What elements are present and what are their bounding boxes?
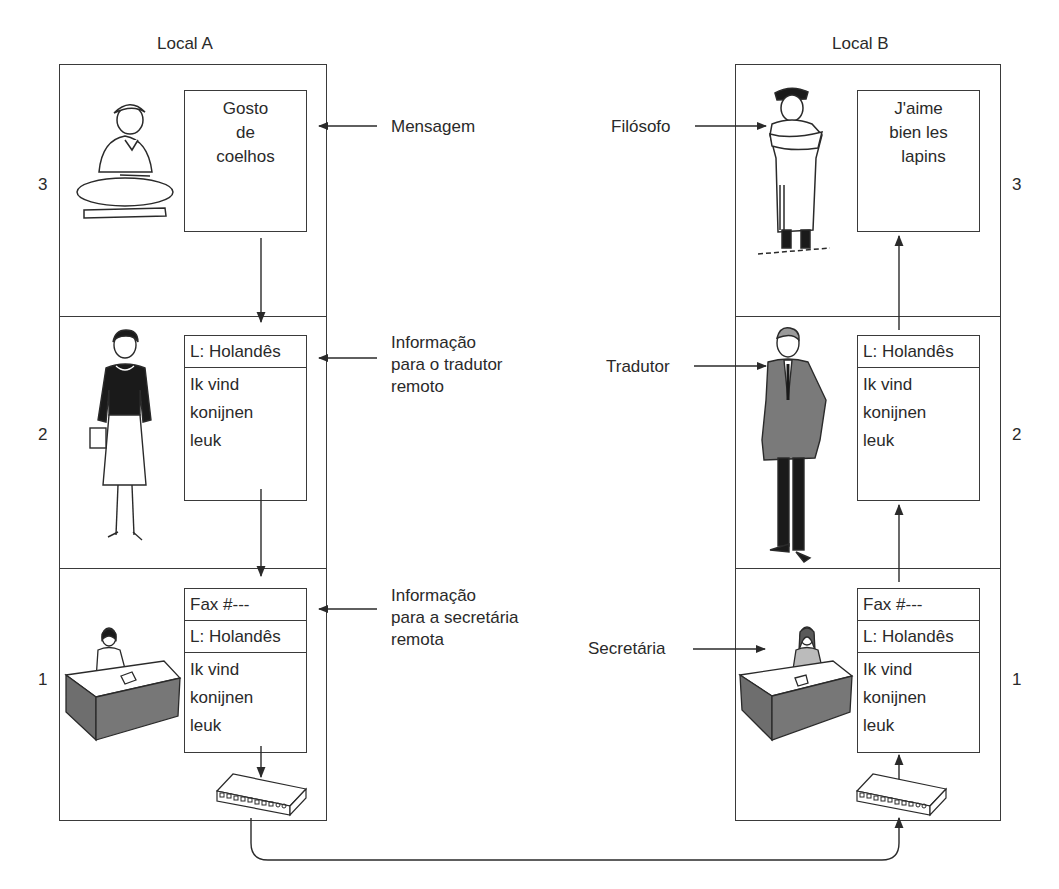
fax-machine-b-icon bbox=[857, 774, 946, 815]
transmission-link bbox=[251, 818, 899, 860]
label-pointer-arrows bbox=[319, 126, 766, 649]
diagram-graphics bbox=[0, 0, 1059, 889]
philosopher-a-illustration bbox=[77, 105, 173, 218]
translator-a-illustration bbox=[90, 330, 151, 540]
secretary-b-illustration bbox=[740, 627, 852, 740]
philosopher-b-illustration bbox=[758, 88, 830, 254]
translator-b-illustration bbox=[762, 328, 826, 562]
fax-machine-a-icon bbox=[217, 774, 306, 815]
secretary-a-illustration bbox=[66, 628, 180, 740]
